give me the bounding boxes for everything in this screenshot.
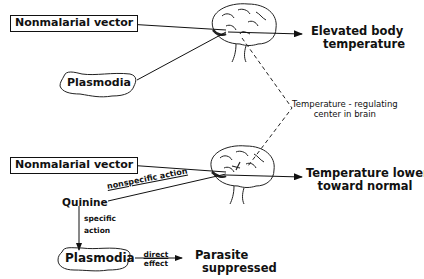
specific-action-label: specific action [84,215,116,235]
specific-action-line1: specific [84,215,116,224]
arrow-to-elevated-temperature [228,32,302,34]
plasmodia-label-bottom: Plasmodia [65,252,135,266]
parasite-suppressed-label: Parasite suppressed [195,249,277,275]
quinine-label: Quinine [62,196,108,208]
parasite-line2: suppressed [195,262,277,275]
temp-center-line2: center in brain [292,110,398,120]
temperature-lowered-line2: toward normal [306,180,424,193]
temperature-lowered-label: Temperature lowered toward normal [306,167,424,193]
specific-action-line2: action [84,227,116,236]
plasmodia-label-top: Plasmodia [67,77,131,90]
elevated-temperature-label: Elevated body temperature [307,25,407,51]
connector-vector-to-brain-top [127,24,226,30]
nonmalarial-vector-box-bottom: Nonmalarial vector [10,157,138,174]
arrow-to-temperature-lowered [226,175,302,177]
temp-regulating-center-label: Temperature - regulating center in brain [292,100,398,120]
dashed-connector-temp-center [242,38,292,166]
elevated-temperature-line2: temperature [307,38,407,51]
direct-effect-label: direct effect [136,251,176,268]
nonmalarial-vector-box-top: Nonmalarial vector [10,15,138,32]
connector-plasmodia-to-brain-top [137,32,226,80]
direct-effect-line2: effect [136,260,176,269]
